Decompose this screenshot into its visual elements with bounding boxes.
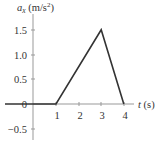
y-tick-label: −0.5 [8,124,27,135]
x-tick-label: 2 [77,110,82,121]
x-tick-label: 1 [54,110,59,121]
acceleration-time-chart: 1.5 1.0 0.5 0 −0.5 1 2 3 4 ax (m/s2) t (… [0,0,157,142]
x-tick-label: 3 [99,110,104,121]
x-tick-label: 4 [122,110,128,121]
x-axis-label: t (s) [138,99,155,111]
acceleration-series-line [5,30,124,104]
y-tick-label: 1.5 [14,25,27,36]
y-tick-label: 0.5 [14,74,27,85]
y-tick-label: 1.0 [14,50,27,61]
y-axis-label: ax (m/s2) [17,1,54,15]
